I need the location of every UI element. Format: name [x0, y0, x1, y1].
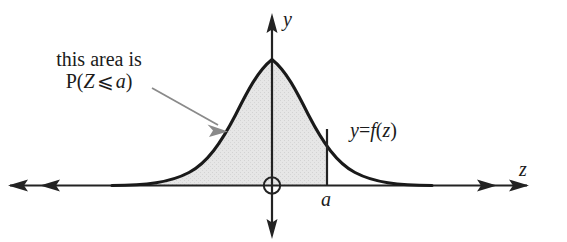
curve-equation-label: y=f(z)	[350, 119, 397, 141]
y-axis-label: y	[283, 8, 292, 30]
area-annotation: this area is P(Z⩽a)	[34, 48, 164, 93]
random-variable-z: Z	[84, 70, 95, 92]
figure-canvas	[0, 0, 567, 242]
paren-close: )	[126, 70, 133, 92]
curve-label-equals: =	[359, 119, 370, 141]
area-annotation-line2: P(Z⩽a)	[34, 70, 164, 92]
curve-label-y: y	[350, 119, 359, 141]
area-annotation-line1: this area is	[34, 48, 164, 70]
z-axis-label: z	[519, 158, 527, 180]
annotation-pointer-line	[152, 88, 218, 125]
normal-distribution-figure: this area is P(Z⩽a) y z y=f(z) a	[0, 0, 567, 242]
probability-p: P(	[66, 70, 84, 92]
value-a: a	[116, 70, 126, 92]
less-than-or-equal-icon: ⩽	[95, 70, 116, 92]
curve-label-close-paren: )	[390, 119, 397, 141]
a-point-label: a	[321, 188, 331, 210]
